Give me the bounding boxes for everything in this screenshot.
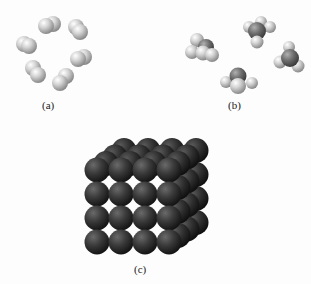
diatomic-molecule <box>16 36 37 54</box>
lattice-atom <box>109 230 134 255</box>
lattice-atom <box>109 158 134 183</box>
diatomic-molecule <box>70 49 92 67</box>
panel-a-label: (a) <box>42 99 54 111</box>
diatomic-molecule <box>52 68 74 91</box>
diatomic-molecule <box>25 60 46 83</box>
lattice-atom <box>157 182 182 207</box>
lattice-atom <box>85 230 110 255</box>
lattice-atom <box>133 230 158 255</box>
diatomic-molecule <box>68 19 88 40</box>
lattice-atom <box>85 206 110 231</box>
lattice-atom <box>133 182 158 207</box>
panel-b-molecules <box>185 16 305 94</box>
lattice-atom <box>157 158 182 183</box>
lattice-atom <box>157 206 182 231</box>
tetrahedral-molecule <box>185 33 219 62</box>
panel-c-lattice <box>85 138 209 255</box>
diatomic-molecule <box>38 16 61 34</box>
lattice-atom <box>85 158 110 183</box>
figure-canvas <box>0 0 311 284</box>
lattice-atom <box>157 230 182 255</box>
tetrahedral-molecule <box>274 41 305 73</box>
panel-c-label: (c) <box>134 263 146 275</box>
lattice-atom <box>133 158 158 183</box>
panel-b-label: (b) <box>228 99 241 111</box>
tetrahedral-molecule <box>243 16 276 49</box>
panel-a-molecules <box>16 16 92 91</box>
lattice-atom <box>133 206 158 231</box>
lattice-atom <box>85 182 110 207</box>
lattice-atom <box>109 206 134 231</box>
lattice-atom <box>109 182 134 207</box>
tetrahedral-molecule <box>220 68 258 95</box>
